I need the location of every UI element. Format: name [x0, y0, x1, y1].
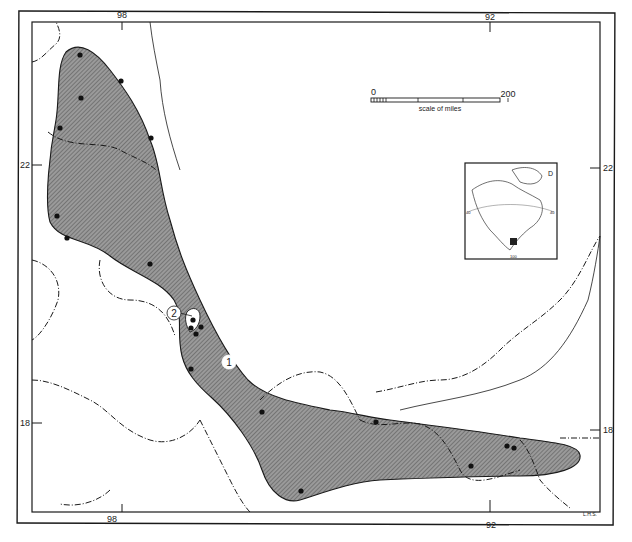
svg-text:1: 1 — [226, 357, 232, 368]
range-label-2: 2 — [167, 306, 181, 320]
distribution-map: 1 2 98 92 98 92 22 18 22 18 0 — [0, 0, 632, 542]
tick-bottom-92: 92 — [486, 520, 496, 530]
coastline — [150, 22, 180, 170]
svg-text:40: 40 — [466, 210, 471, 215]
tick-left-18: 18 — [20, 418, 30, 428]
svg-text:2: 2 — [171, 308, 177, 319]
species-range-area — [48, 47, 581, 501]
inset-locator-map: D 40 40 100 — [465, 163, 557, 259]
tick-top-98: 98 — [117, 10, 127, 20]
scale-bar: 0 200 scale of miles — [371, 87, 516, 112]
tick-top-92: 92 — [485, 12, 495, 22]
range-label-1: 1 — [222, 355, 236, 369]
svg-text:0: 0 — [371, 87, 376, 97]
coastline-yucatan — [400, 236, 600, 410]
map-credit: L.H.S. — [583, 511, 597, 517]
svg-text:scale of miles: scale of miles — [419, 105, 462, 112]
tick-right-18: 18 — [603, 425, 613, 435]
tick-bottom-98: 98 — [107, 514, 117, 524]
svg-text:200: 200 — [500, 89, 515, 99]
tick-left-22: 22 — [20, 160, 30, 170]
tick-right-22: 22 — [603, 163, 613, 173]
svg-text:100: 100 — [510, 254, 517, 259]
svg-text:40: 40 — [550, 210, 555, 215]
svg-text:D: D — [548, 170, 553, 177]
